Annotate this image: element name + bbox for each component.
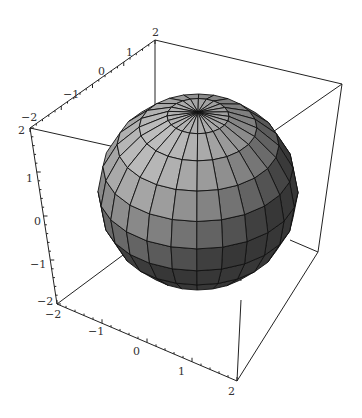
box-edge	[155, 40, 342, 84]
bottom-axis-tick-label: −2	[45, 308, 61, 321]
box-edge	[290, 240, 318, 252]
bottom-axis-tick-label: 1	[178, 365, 185, 378]
left-axis-tick-label: 1	[26, 172, 33, 185]
sphere-3d-plot: −2−1012210−1−2−2−1012	[0, 0, 362, 418]
left-axis-tick-label: 2	[18, 124, 25, 137]
sphere-facet	[197, 220, 223, 249]
box-edge	[318, 84, 342, 252]
top-axis-tick-label: −2	[21, 111, 37, 124]
top-axis-tick-label: 1	[126, 46, 133, 59]
sphere-facet	[172, 190, 197, 222]
top-axis-tick-label: −1	[63, 88, 79, 101]
sphere-facet	[171, 247, 197, 271]
bottom-axis-tick-label: 0	[133, 345, 140, 358]
left-axis-tick-label: −2	[37, 295, 53, 308]
sphere-surface	[98, 94, 298, 290]
bottom-axis-tick-label: 2	[228, 385, 235, 398]
sphere-facet	[222, 215, 248, 248]
top-axis-tick-label: 2	[152, 26, 159, 39]
box-edge	[237, 300, 241, 381]
sphere-facet	[171, 220, 197, 249]
top-axis-tick-label: 0	[98, 65, 105, 78]
sphere-facet	[197, 247, 223, 271]
sphere-facet	[197, 190, 222, 222]
sphere-facet	[172, 269, 197, 285]
left-axis-tick-label: −1	[30, 258, 46, 271]
bottom-axis-tick-label: −1	[88, 325, 104, 338]
left-axis-tick-label: 0	[34, 215, 41, 228]
sphere-facet	[197, 269, 222, 285]
